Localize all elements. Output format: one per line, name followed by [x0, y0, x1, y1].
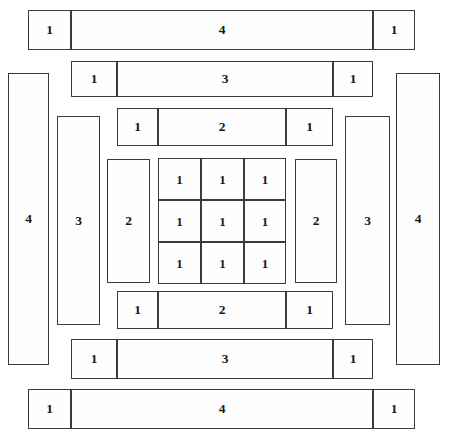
third-row-left-square-1: 1: [117, 108, 158, 146]
center-cell-r1c2: 1: [201, 158, 244, 200]
center-cell-r3c2: 1: [201, 242, 244, 284]
left-inner-column-3: 3: [57, 116, 100, 325]
bottom-third-row-right-square-1: 1: [286, 291, 333, 329]
center-cell-r2c1: 1: [158, 200, 201, 242]
second-row-right-square-1: 1: [333, 61, 373, 97]
bottom-third-row-left-square-1: 1: [117, 291, 158, 329]
center-cell-r1c1: 1: [158, 158, 201, 200]
tiling-diagram-canvas: 141131121432234111111111121131141: [0, 0, 452, 440]
left-core-column-2: 2: [107, 159, 150, 283]
second-row-bar-3: 3: [117, 61, 333, 97]
center-cell-r1c3: 1: [244, 158, 286, 200]
center-cell-r3c3: 1: [244, 242, 286, 284]
right-outer-column-4: 4: [396, 73, 440, 365]
right-core-column-2: 2: [295, 159, 337, 283]
bottom-third-row-bar-2: 2: [158, 291, 286, 329]
bottom-second-row-right-square-1: 1: [333, 339, 373, 379]
second-row-left-square-1: 1: [71, 61, 117, 97]
center-cell-r2c3: 1: [244, 200, 286, 242]
left-outer-column-4: 4: [8, 73, 49, 365]
bottom-second-row-left-square-1: 1: [71, 339, 117, 379]
third-row-right-square-1: 1: [286, 108, 333, 146]
top-row-left-square-1: 1: [28, 10, 71, 50]
center-cell-r3c1: 1: [158, 242, 201, 284]
bottom-row-right-square-1: 1: [373, 389, 415, 429]
center-cell-r2c2: 1: [201, 200, 244, 242]
top-row-right-square-1: 1: [373, 10, 415, 50]
bottom-row-bar-4: 4: [71, 389, 373, 429]
right-inner-column-3: 3: [345, 116, 390, 325]
bottom-row-left-square-1: 1: [28, 389, 71, 429]
third-row-bar-2: 2: [158, 108, 286, 146]
top-row-bar-4: 4: [71, 10, 373, 50]
bottom-second-row-bar-3: 3: [117, 339, 333, 379]
